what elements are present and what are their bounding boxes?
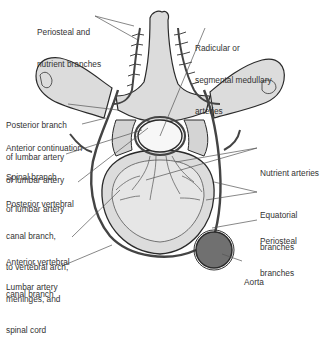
label-aorta: Aorta: [244, 256, 264, 309]
label-radicular-segmental-medullary-arteries: Radicular or segmental medullary arterie…: [195, 22, 272, 138]
label-periosteal-branches: Periosteal branches: [260, 215, 297, 299]
label-lumbar-artery: Lumbar artery: [6, 261, 58, 314]
label-periosteal-nutrient-branches: Periosteal and nutrient branches: [37, 6, 101, 90]
aorta: [196, 232, 232, 268]
